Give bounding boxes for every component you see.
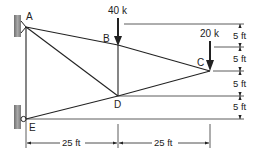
load-arrow-b [114, 18, 122, 46]
wall-support-a [14, 15, 21, 37]
wall-support-e [14, 105, 21, 129]
roller-support-e [21, 116, 26, 121]
node-label-e: E [29, 122, 36, 133]
dim-label-v3: 5 ft [233, 78, 247, 89]
member-dc [118, 71, 210, 96]
member-ed [26, 96, 118, 119]
node-label-c: C [197, 57, 204, 68]
dim-label-v4: 5 ft [233, 101, 247, 112]
extension-lines [26, 24, 244, 148]
dim-label-h1: 25 ft [62, 137, 81, 148]
node-label-b: B [103, 33, 110, 44]
pin-support-a [21, 21, 26, 33]
dim-label-v2: 5 ft [233, 53, 247, 64]
load-arrow-c [206, 41, 214, 71]
dim-label-v1: 5 ft [233, 30, 247, 41]
truss-diagram: A B C D E 40 k 20 k 5 ft 5 ft 5 ft 5 ft … [0, 0, 259, 160]
load-label-20k: 20 k [200, 28, 220, 39]
dim-label-h2: 25 ft [154, 137, 173, 148]
load-label-40k: 40 k [108, 5, 128, 16]
node-label-d: D [114, 99, 121, 110]
node-label-a: A [26, 11, 33, 22]
